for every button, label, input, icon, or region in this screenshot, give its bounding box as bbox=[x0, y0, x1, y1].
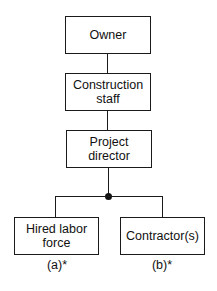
project-director-label: Project director bbox=[88, 135, 130, 163]
construction-staff-label: Construction staff bbox=[73, 78, 143, 106]
owner-label: Owner bbox=[90, 28, 127, 42]
connector-to-hired-labor bbox=[55, 196, 56, 217]
hired-labor-label: Hired labor force bbox=[26, 222, 87, 250]
contractors-box: Contractor(s) bbox=[120, 217, 205, 255]
owner-box: Owner bbox=[65, 16, 151, 54]
connector-to-contractors bbox=[162, 196, 163, 217]
connector-owner-staff bbox=[107, 54, 108, 73]
construction-staff-box: Construction staff bbox=[65, 73, 151, 111]
contractors-label: Contractor(s) bbox=[126, 229, 199, 243]
project-director-box: Project director bbox=[66, 130, 152, 168]
connector-horizontal-branch bbox=[55, 196, 162, 197]
connector-staff-director bbox=[107, 111, 108, 130]
hired-labor-box: Hired labor force bbox=[14, 217, 99, 255]
connector-director-junction bbox=[108, 168, 109, 196]
contractors-note: (b)* bbox=[145, 258, 179, 272]
hired-labor-note: (a)* bbox=[40, 258, 74, 272]
